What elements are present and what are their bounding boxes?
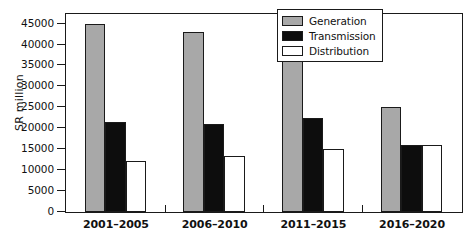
bar-distribution-2 (224, 156, 245, 212)
y-axis-tick-label: 15000 (21, 142, 54, 154)
bar-generation-4 (381, 107, 402, 212)
bar-chart: SR million 05000100001500020000250003000… (0, 0, 472, 252)
y-axis-tick-label: 30000 (21, 79, 54, 91)
x-axis-group-label-3: 2011–2015 (264, 218, 363, 231)
y-axis-tick-label: 0 (47, 205, 54, 217)
legend-swatch-generation-icon (282, 16, 303, 26)
y-axis-tick-label: 10000 (21, 163, 54, 175)
bar-generation-1 (85, 24, 106, 212)
bar-transmission-2 (204, 124, 225, 212)
y-axis-tick: 15000 (57, 148, 66, 149)
bar-distribution-3 (323, 149, 344, 212)
y-axis-tick-label: 5000 (28, 184, 54, 196)
y-axis-tick: 25000 (57, 106, 66, 107)
bar-generation-2 (183, 32, 204, 212)
legend-swatch-transmission-icon (282, 31, 303, 41)
y-axis-tick: 5000 (57, 190, 66, 191)
x-axis-tick (263, 205, 264, 212)
legend-swatch-distribution-icon (282, 46, 303, 56)
bar-transmission-3 (303, 118, 324, 212)
legend-item-distribution: Distribution (282, 43, 376, 58)
y-axis-tick-label: 40000 (21, 38, 54, 50)
y-axis-tick: 40000 (57, 44, 66, 45)
x-axis-tick (165, 205, 166, 212)
y-axis-tick-label: 45000 (21, 17, 54, 29)
bar-transmission-1 (105, 122, 126, 212)
legend-label: Distribution (309, 45, 369, 57)
x-axis-group-label-1: 2001–2005 (67, 218, 166, 231)
x-axis-group-label-4: 2016–2020 (363, 218, 462, 231)
legend-item-transmission: Transmission (282, 28, 376, 43)
y-axis-tick: 10000 (57, 169, 66, 170)
bar-distribution-1 (126, 161, 147, 212)
y-axis-tick: 35000 (57, 64, 66, 65)
chart-legend: GenerationTransmissionDistribution (277, 9, 383, 62)
y-axis-tick-label: 20000 (21, 121, 54, 133)
legend-label: Transmission (309, 30, 376, 42)
x-axis-tick (362, 205, 363, 212)
y-axis-tick: 30000 (57, 85, 66, 86)
plot-frame: 0500010000150002000025000300003500040000… (65, 13, 463, 213)
bar-distribution-4 (422, 145, 443, 212)
y-axis-tick-label: 35000 (21, 58, 54, 70)
legend-item-generation: Generation (282, 13, 376, 28)
legend-label: Generation (309, 15, 367, 27)
y-axis-tick: 0 (57, 211, 66, 212)
y-axis-tick: 45000 (57, 23, 66, 24)
y-axis-tick: 20000 (57, 127, 66, 128)
x-axis-group-label-2: 2006–2010 (165, 218, 264, 231)
bar-transmission-4 (401, 145, 422, 212)
plot-area: 0500010000150002000025000300003500040000… (66, 14, 462, 212)
y-axis-tick-label: 25000 (21, 100, 54, 112)
